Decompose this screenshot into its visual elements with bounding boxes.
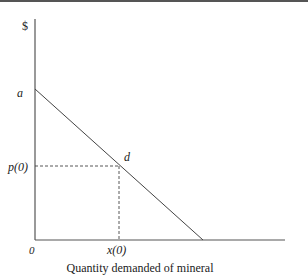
origin-label: 0 (29, 244, 35, 256)
y-axis-label: $ (22, 19, 28, 33)
point-label: d (124, 150, 131, 164)
price-label: p(0) (7, 160, 28, 174)
intercept-label: a (17, 86, 23, 100)
x-axis-label: Quantity demanded of mineral (67, 261, 215, 275)
quantity-label: x(0) (106, 243, 126, 257)
demand-diagram: $ a d p(0) 0 x(0) Quantity demanded of m… (0, 0, 308, 279)
